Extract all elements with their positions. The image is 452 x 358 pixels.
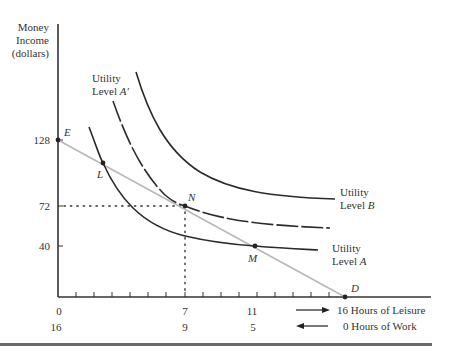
x-tick-leisure-7: 7 xyxy=(182,305,188,317)
utility-curve-a-prime xyxy=(113,101,330,228)
x-tick-work-5: 5 xyxy=(250,321,256,333)
x-axis-label-work: 0 Hours of Work xyxy=(343,320,417,332)
y-axis-title-line3: (dollars) xyxy=(12,47,50,60)
arrow-left-icon xyxy=(296,323,328,329)
point-m xyxy=(253,244,258,249)
x-tick-work-9: 9 xyxy=(182,321,188,333)
leisure-income-chart: E L N M D Money Income (dollars) 128 72 … xyxy=(0,0,452,358)
x-tick-leisure-0: 0 xyxy=(56,305,62,317)
x-axis-label-leisure: 16 Hours of Leisure xyxy=(337,304,425,316)
bottom-rule xyxy=(0,343,432,346)
x-tick-work-16: 16 xyxy=(51,321,63,333)
y-tick-128: 128 xyxy=(34,134,51,146)
y-axis-title-line2: Income xyxy=(16,34,49,46)
utility-curve-b xyxy=(136,72,335,199)
point-n xyxy=(183,204,188,209)
label-utility-b-line2: Level B xyxy=(340,199,375,211)
point-e xyxy=(56,138,61,143)
y-axis-title-line1: Money xyxy=(18,21,50,33)
x-tick-leisure-11: 11 xyxy=(247,305,258,317)
label-d: D xyxy=(350,282,359,294)
point-l xyxy=(101,161,106,166)
label-utility-a-line1: Utility xyxy=(332,242,361,254)
point-d xyxy=(343,295,348,300)
label-m: M xyxy=(247,252,258,264)
y-tick-72: 72 xyxy=(39,200,50,212)
label-utility-a-prime-line1: Utility xyxy=(92,72,121,84)
arrow-right-icon xyxy=(296,307,330,313)
label-utility-b-line1: Utility xyxy=(340,186,369,198)
label-utility-a-line2: Level A xyxy=(332,255,367,267)
label-l: L xyxy=(96,168,103,180)
label-e: E xyxy=(63,126,71,138)
utility-curve-a xyxy=(89,127,318,250)
y-tick-40: 40 xyxy=(39,240,51,252)
label-n: N xyxy=(187,191,196,203)
label-utility-a-prime-line2: Level A′ xyxy=(92,85,130,97)
